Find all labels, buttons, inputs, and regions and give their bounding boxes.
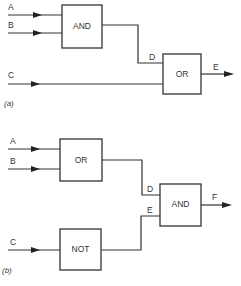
diagram-b: A B OR D C NOT E AND F (b): [2, 136, 232, 275]
label-a-input-a: A: [8, 2, 14, 12]
label-b-signal-e: E: [147, 205, 153, 215]
label-b-signal-d: D: [147, 184, 153, 194]
caption-b: (b): [2, 266, 12, 275]
arrow-icon: [31, 247, 40, 253]
label-a-input-c: C: [8, 70, 14, 80]
gate-a-or-label: OR: [176, 69, 189, 79]
arrow-icon: [33, 30, 42, 36]
arrow-icon: [31, 146, 40, 152]
label-a-signal-d: D: [149, 52, 155, 62]
arrow-icon: [31, 166, 40, 172]
label-b-input-a: A: [10, 136, 16, 146]
gate-b-not-label: NOT: [72, 244, 90, 254]
label-b-output-f: F: [212, 192, 217, 202]
arrow-icon: [31, 81, 40, 87]
label-b-input-c: C: [10, 237, 16, 247]
arrow-icon: [222, 202, 232, 208]
diagram-a: A B AND D C OR E (a): [4, 2, 234, 108]
logic-diagrams: A B AND D C OR E (a) A B: [0, 0, 241, 286]
gate-a-and-label: AND: [73, 21, 91, 31]
label-a-output-e: E: [213, 62, 219, 72]
arrow-icon: [224, 71, 234, 77]
arrow-icon: [33, 12, 42, 18]
label-a-input-b: B: [8, 20, 14, 30]
gate-b-and-label: AND: [172, 199, 190, 209]
caption-a: (a): [4, 99, 14, 108]
gate-b-or-label: OR: [75, 155, 88, 165]
wire-b-e: [101, 216, 160, 250]
label-b-input-b: B: [10, 156, 16, 166]
